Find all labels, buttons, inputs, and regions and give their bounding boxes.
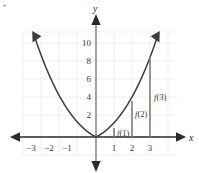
y-tick-label: 4 [87,92,92,102]
y-axis-down-arrow-icon [91,161,100,172]
corner-speck-icon [3,4,5,6]
y-axis [91,14,100,172]
y-tick-label: 10 [82,38,92,48]
x-tick-labels: −3 −2 −1 1 2 3 [26,143,153,153]
x-tick-label: 3 [148,143,153,153]
x-axis [10,132,186,142]
label-f2: f(2) [135,109,147,119]
x-tick-label: −3 [26,143,36,153]
y-tick-label: 2 [87,110,92,120]
y-tick-label: 8 [87,56,92,66]
y-tick-label: 6 [87,74,92,84]
x-tick-label: 2 [130,143,135,153]
x-tick-label: −2 [44,143,54,153]
label-f1: f(1) [117,128,129,138]
x-axis-left-arrow-icon [10,132,20,142]
x-tick-label: 1 [112,143,117,153]
y-axis-up-arrow-icon [91,14,100,25]
x-tick-label: −1 [62,143,72,153]
y-axis-label: y [92,3,98,14]
x-axis-right-arrow-icon [176,132,186,142]
graph-figure: −3 −2 −1 1 2 3 2 4 6 8 10 f(1) f(2) f(3)… [0,0,199,173]
x-axis-label: x [188,132,194,143]
parabola-plot: −3 −2 −1 1 2 3 2 4 6 8 10 f(1) f(2) f(3)… [0,0,199,173]
label-f3: f(3) [154,92,166,102]
